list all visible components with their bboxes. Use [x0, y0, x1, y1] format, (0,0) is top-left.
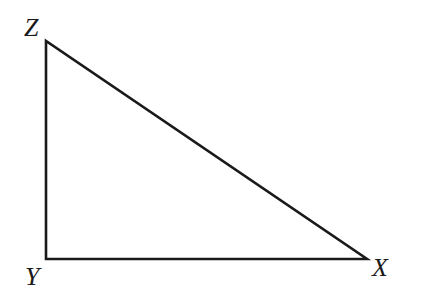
vertex-label-x: X: [371, 253, 389, 282]
vertex-label-z: Z: [24, 13, 39, 42]
vertex-label-y: Y: [25, 262, 42, 291]
triangle-diagram: Z Y X: [0, 0, 422, 303]
